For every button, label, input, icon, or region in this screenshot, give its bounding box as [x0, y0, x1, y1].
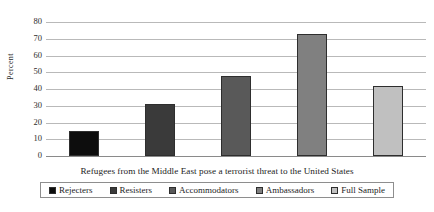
bar-slot	[350, 22, 426, 156]
legend-swatch-icon	[110, 187, 117, 194]
bar-slot	[198, 22, 274, 156]
bar-rejecters	[69, 131, 99, 156]
y-axis-tick-label: 80	[16, 17, 42, 26]
bar-ambassadors	[297, 34, 327, 156]
bar-slot	[46, 22, 122, 156]
y-axis-tick-label: 20	[16, 118, 42, 127]
plot-area: Percent 01020304050607080	[0, 0, 434, 168]
legend-label: Resisters	[120, 185, 153, 195]
legend-swatch-icon	[256, 187, 263, 194]
y-axis-tick-label: 40	[16, 84, 42, 93]
chart-legend: RejectersResistersAccommodatorsAmbassado…	[40, 182, 394, 198]
bars-group	[46, 22, 426, 156]
bar-chart-figure: Percent 01020304050607080 Refugees from …	[0, 0, 434, 212]
legend-item-ambassadors: Ambassadors	[256, 185, 315, 195]
legend-item-accommodators: Accommodators	[169, 185, 238, 195]
legend-item-full-sample: Full Sample	[331, 185, 385, 195]
legend-item-rejecters: Rejecters	[49, 185, 92, 195]
y-axis-tick-label: 50	[16, 67, 42, 76]
y-axis-tick-label: 30	[16, 101, 42, 110]
bar-full-sample	[373, 86, 403, 156]
gridline	[46, 156, 426, 157]
bar-slot	[122, 22, 198, 156]
bar-accommodators	[221, 76, 251, 156]
legend-swatch-icon	[331, 187, 338, 194]
legend-item-resisters: Resisters	[110, 185, 153, 195]
legend-label: Ambassadors	[266, 185, 315, 195]
x-axis-caption: Refugees from the Middle East pose a ter…	[0, 166, 434, 176]
legend-swatch-icon	[169, 187, 176, 194]
legend-label: Rejecters	[59, 185, 92, 195]
bar-slot	[274, 22, 350, 156]
y-axis-tick-label: 60	[16, 51, 42, 60]
legend-label: Full Sample	[341, 185, 385, 195]
y-axis-tick-label: 70	[16, 34, 42, 43]
legend-label: Accommodators	[179, 185, 238, 195]
y-axis-tick-label: 10	[16, 134, 42, 143]
bar-resisters	[145, 104, 175, 156]
y-axis-tick-label: 0	[16, 151, 42, 160]
legend-swatch-icon	[49, 187, 56, 194]
y-axis-label: Percent	[6, 37, 15, 97]
